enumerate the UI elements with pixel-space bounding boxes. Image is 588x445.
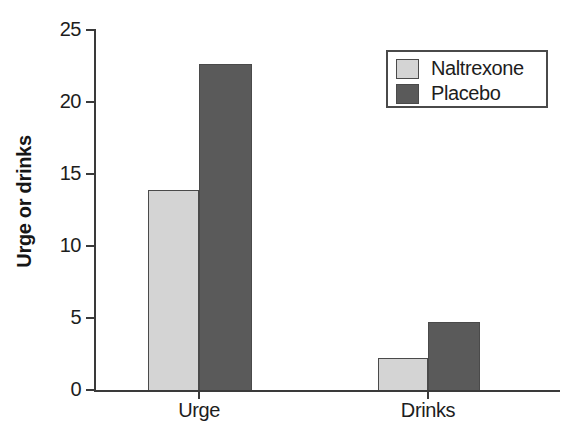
y-tick-mark-5 (86, 317, 95, 319)
y-tick-mark-15 (86, 173, 95, 175)
legend-swatch-naltrexone (396, 59, 419, 79)
legend-label-naltrexone: Naltrexone (431, 57, 524, 80)
x-tick-label-urge: Urge (119, 399, 279, 422)
y-axis-line (94, 29, 96, 391)
legend-item-naltrexone: Naltrexone (396, 56, 546, 81)
y-tick-label-15: 15 (41, 162, 81, 185)
legend-label-placebo: Placebo (431, 82, 500, 105)
bar-urge-placebo (199, 64, 252, 391)
x-tick-label-drinks: Drinks (348, 399, 508, 422)
y-tick-label-20: 20 (41, 90, 81, 113)
y-tick-label-5: 5 (41, 306, 81, 329)
y-axis-title-container: Urge or drinks (0, 0, 46, 445)
legend-swatch-placebo (396, 84, 419, 104)
legend-item-placebo: Placebo (396, 81, 546, 106)
legend: Naltrexone Placebo (386, 50, 548, 108)
bar-drinks-placebo (428, 322, 480, 391)
y-tick-label-10: 10 (41, 234, 81, 257)
x-tick-mark-drinks (427, 390, 429, 399)
y-tick-mark-25 (86, 29, 95, 31)
bar-chart-figure: Urge or drinks 25 20 15 10 5 0 Urge Drin… (0, 0, 588, 445)
x-tick-mark-urge (198, 390, 200, 399)
bar-urge-naltrexone (148, 190, 199, 391)
bar-drinks-naltrexone (378, 358, 428, 391)
y-tick-label-0: 0 (41, 378, 81, 401)
y-tick-mark-10 (86, 245, 95, 247)
y-tick-label-25: 25 (41, 18, 81, 41)
y-axis-title: Urge or drinks (13, 92, 36, 312)
x-axis-line (94, 390, 560, 392)
y-tick-mark-20 (86, 101, 95, 103)
